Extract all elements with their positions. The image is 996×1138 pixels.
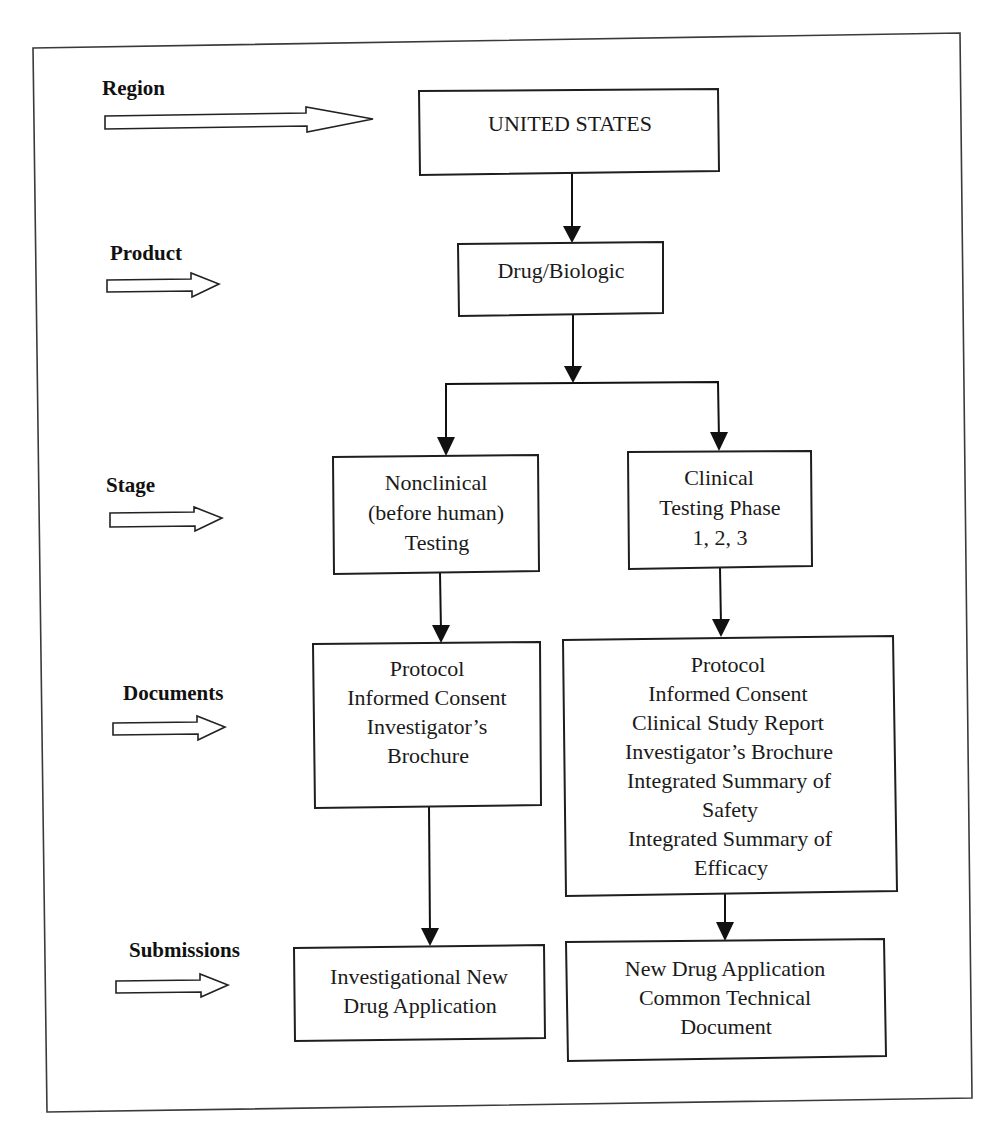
node-text: Integrated Summary of [627, 768, 832, 793]
flowchart-canvas: Region Product Stage Documents Submissio… [0, 0, 996, 1138]
row-label-product: Product [107, 241, 219, 297]
row-label-submissions-text: Submissions [129, 938, 240, 962]
node-text: (before human) [368, 500, 504, 525]
node-text: Common Technical [639, 985, 811, 1010]
node-docs-clinical: Protocol Informed Consent Clinical Study… [563, 636, 897, 896]
arrowhead-icon [563, 226, 581, 243]
node-text: 1, 2, 3 [693, 525, 748, 550]
hollow-right-arrow-icon [107, 273, 219, 297]
row-label-stage-text: Stage [106, 473, 155, 497]
hollow-right-arrow-icon [116, 974, 228, 997]
row-label-stage: Stage [106, 473, 222, 531]
arrowhead-icon [712, 619, 730, 637]
node-product-drug-biologic: Drug/Biologic [458, 242, 663, 316]
node-text: Clinical Study Report [632, 710, 824, 735]
node-text: Informed Consent [648, 681, 807, 706]
row-label-region-text: Region [102, 76, 165, 100]
row-label-submissions: Submissions [116, 938, 240, 997]
node-text: Investigational New [330, 964, 508, 989]
node-text: Brochure [387, 743, 469, 768]
node-submission-ind: Investigational New Drug Application [294, 945, 545, 1041]
node-text: New Drug Application [625, 956, 825, 981]
arrowhead-icon [437, 437, 455, 456]
node-text: Document [680, 1014, 772, 1039]
node-text: Nonclinical [385, 470, 488, 495]
arrowhead-icon [716, 922, 734, 941]
node-text: Informed Consent [347, 685, 506, 710]
row-label-documents-text: Documents [123, 681, 223, 705]
node-text: Clinical [684, 465, 754, 490]
node-submission-nda: New Drug Application Common Technical Do… [566, 939, 886, 1061]
node-text: UNITED STATES [488, 111, 652, 136]
node-stage-clinical: Clinical Testing Phase 1, 2, 3 [628, 451, 812, 569]
node-text: Testing [405, 530, 469, 555]
node-docs-nonclinical: Protocol Informed Consent Investigator’s… [313, 642, 541, 808]
node-stage-nonclinical: Nonclinical (before human) Testing [333, 455, 539, 574]
node-region-united-states: UNITED STATES [419, 89, 719, 175]
arrowhead-icon [432, 625, 450, 643]
node-text: Protocol [390, 656, 465, 681]
row-label-product-text: Product [110, 241, 182, 265]
node-text: Protocol [691, 652, 766, 677]
arrowhead-icon [710, 432, 728, 451]
node-text: Testing Phase [659, 495, 780, 520]
hollow-right-arrow-icon [113, 716, 225, 740]
node-text: Drug/Biologic [497, 258, 624, 283]
node-text: Drug Application [343, 993, 496, 1018]
hollow-right-arrow-icon [110, 507, 222, 531]
node-text: Integrated Summary of [628, 826, 833, 851]
row-label-region: Region [102, 76, 373, 132]
node-text: Investigator’s [367, 714, 488, 739]
arrowhead-icon [421, 928, 439, 946]
node-text: Safety [702, 797, 758, 822]
arrowhead-icon [564, 366, 582, 383]
row-label-documents: Documents [113, 681, 225, 740]
node-text: Efficacy [694, 855, 768, 880]
hollow-right-arrow-icon [105, 107, 373, 132]
node-text: Investigator’s Brochure [625, 739, 833, 764]
